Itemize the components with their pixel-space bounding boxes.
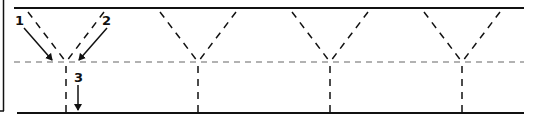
- label-1: 1: [15, 13, 24, 28]
- v-patterns: [28, 12, 500, 113]
- arrow-2: [79, 28, 107, 60]
- incident-ray-left: [424, 12, 462, 62]
- diagram-canvas: 1 2 3: [0, 0, 536, 117]
- incident-ray-left: [160, 12, 198, 62]
- incident-ray-left: [292, 12, 330, 62]
- arrow-1: [24, 28, 52, 60]
- incident-ray-right: [462, 12, 500, 62]
- incident-ray-right: [330, 12, 368, 62]
- label-2: 2: [102, 13, 111, 28]
- incident-ray-right: [198, 12, 236, 62]
- label-3: 3: [74, 70, 83, 85]
